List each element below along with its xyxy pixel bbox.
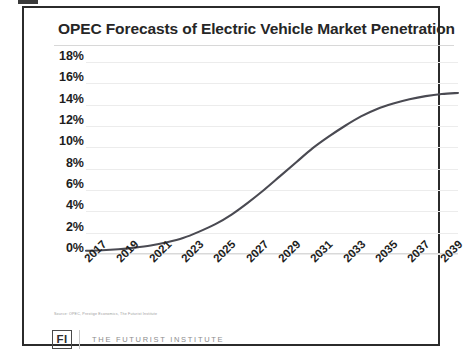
y-axis-tick-label: 0% bbox=[66, 242, 84, 254]
title-divider bbox=[54, 45, 454, 46]
y-axis-tick-label: 4% bbox=[66, 199, 84, 211]
axis-baseline bbox=[86, 253, 458, 254]
page-title: OPEC Forecasts of Electric Vehicle Marke… bbox=[58, 20, 455, 38]
x-axis-labels: 2017201920212023202520272029203120332035… bbox=[86, 256, 458, 308]
line-series-ev-penetration bbox=[86, 62, 458, 254]
y-axis-tick-label: 8% bbox=[66, 157, 84, 169]
y-axis-tick-label: 16% bbox=[59, 71, 84, 83]
footer-organization-name: THE FUTURIST INSTITUTE bbox=[92, 335, 224, 344]
plot-area bbox=[86, 62, 458, 254]
gridline bbox=[86, 254, 458, 255]
y-axis-tick-label: 14% bbox=[59, 93, 84, 105]
y-axis-tick-label: 2% bbox=[66, 221, 84, 233]
y-axis-labels: 18%16%14%12%10%8%6%4%2%0% bbox=[46, 56, 84, 260]
y-axis-tick-label: 18% bbox=[59, 50, 84, 62]
footer-divider bbox=[79, 330, 80, 349]
y-axis-tick-label: 10% bbox=[59, 135, 84, 147]
y-axis-tick-label: 12% bbox=[59, 114, 84, 126]
futurist-institute-logo: FI bbox=[52, 330, 72, 349]
source-note: Source: OPEC, Prestige Economics, The Fu… bbox=[54, 312, 157, 316]
y-axis-tick-label: 6% bbox=[66, 178, 84, 190]
slide-frame: OPEC Forecasts of Electric Vehicle Marke… bbox=[22, 6, 440, 346]
title-bar: OPEC Forecasts of Electric Vehicle Marke… bbox=[50, 18, 460, 46]
footer: FI THE FUTURIST INSTITUTE bbox=[52, 328, 456, 350]
top-edge-artifact bbox=[18, 0, 38, 4]
